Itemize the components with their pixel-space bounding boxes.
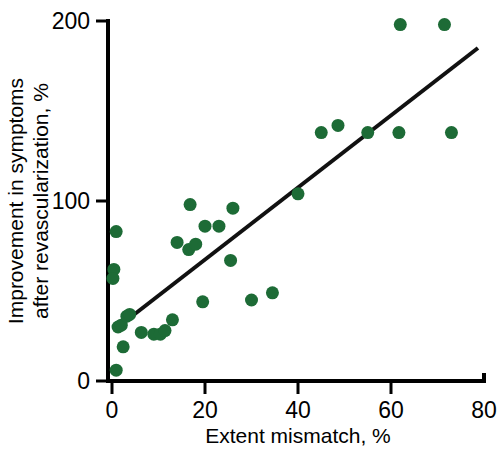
data-point xyxy=(106,272,119,285)
plot-area: 0100200 020406080 xyxy=(0,0,503,458)
data-point xyxy=(189,238,202,251)
x-tick-label-60: 60 xyxy=(378,399,404,422)
data-point xyxy=(331,119,344,132)
data-point xyxy=(117,340,130,353)
y-axis-title: Improvement in symptoms after revascular… xyxy=(4,21,54,381)
data-point xyxy=(171,236,184,249)
y-axis-title-line-1: Improvement in symptoms xyxy=(4,21,29,381)
data-point xyxy=(212,220,225,233)
data-point xyxy=(266,286,279,299)
x-tick-label-80: 80 xyxy=(471,399,497,422)
data-point xyxy=(110,225,123,238)
data-point xyxy=(394,18,407,31)
data-point xyxy=(184,198,197,211)
data-point xyxy=(438,18,451,31)
x-tick-label-40: 40 xyxy=(285,399,311,422)
data-point xyxy=(361,126,374,139)
data-point xyxy=(392,126,405,139)
data-point xyxy=(159,324,172,337)
scatter-plot-figure: 0100200 020406080 Extent mismatch, % Imp… xyxy=(0,0,503,458)
data-point xyxy=(445,126,458,139)
data-point xyxy=(196,295,209,308)
data-point xyxy=(226,202,239,215)
y-axis-title-line-2: after revascularization, % xyxy=(29,21,54,381)
data-point xyxy=(166,313,179,326)
data-point xyxy=(245,294,258,307)
x-tick-label-20: 20 xyxy=(192,399,218,422)
data-point xyxy=(224,254,237,267)
x-axis-title: Extent mismatch, % xyxy=(112,424,484,448)
data-point xyxy=(135,326,148,339)
data-point xyxy=(315,126,328,139)
data-point xyxy=(110,364,123,377)
data-point xyxy=(123,308,136,321)
data-point xyxy=(292,187,305,200)
x-tick-label-0: 0 xyxy=(106,399,119,422)
data-point xyxy=(199,220,212,233)
